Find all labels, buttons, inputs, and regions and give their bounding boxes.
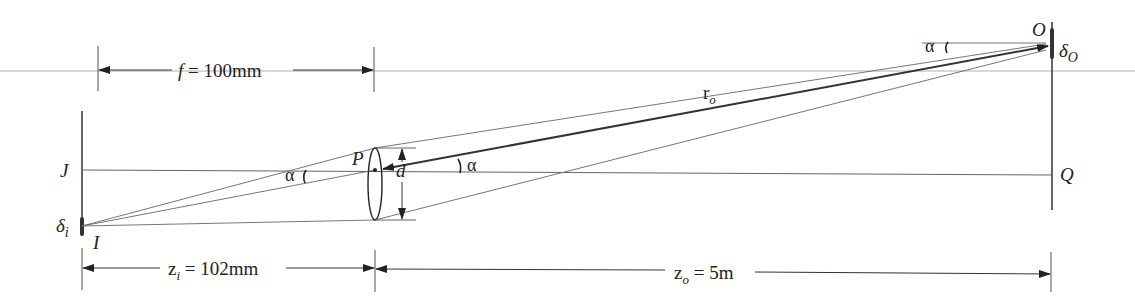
r-o-label: ro [703, 82, 716, 107]
alpha-label-image-side: α [285, 165, 295, 185]
ray-r-o [383, 46, 1048, 169]
object-distance-label: zo = 5m [674, 262, 734, 287]
alpha-arc-object [946, 42, 948, 53]
alpha-arc-lens [458, 159, 461, 173]
point-P-label: P [351, 148, 364, 169]
alpha-label-lens: α [467, 155, 477, 175]
aperture-d-label: d [396, 160, 406, 181]
ray-I-to-lens-center [82, 170, 375, 226]
delta-o-label: δO [1059, 40, 1078, 65]
ray-lens-bottom-to-O [375, 50, 1046, 220]
optical-axis-J-Q [82, 170, 1052, 175]
point-I-label: I [92, 232, 101, 253]
ray-I-to-lens-bottom [82, 220, 375, 226]
image-distance-label: zi = 102mm [168, 258, 259, 283]
thin-lens [368, 148, 382, 220]
point-O-label: O [1032, 19, 1046, 40]
optics-diagram: f = 100mm zi = 102mm zo = 5m J I P Q O δ… [0, 0, 1135, 301]
point-J-label: J [60, 160, 70, 181]
delta-i-label: δi [56, 215, 69, 240]
zo-dim-arrow-left [376, 269, 665, 270]
ray-I-to-lens-top [82, 148, 375, 226]
focal-length-label: f = 100mm [178, 60, 262, 81]
alpha-arc-image-side [304, 170, 306, 183]
point-Q-label: Q [1060, 164, 1074, 185]
lens-center-point-P [373, 168, 377, 172]
alpha-label-object: α [925, 36, 935, 56]
zo-dim-arrow-right [755, 272, 1050, 274]
